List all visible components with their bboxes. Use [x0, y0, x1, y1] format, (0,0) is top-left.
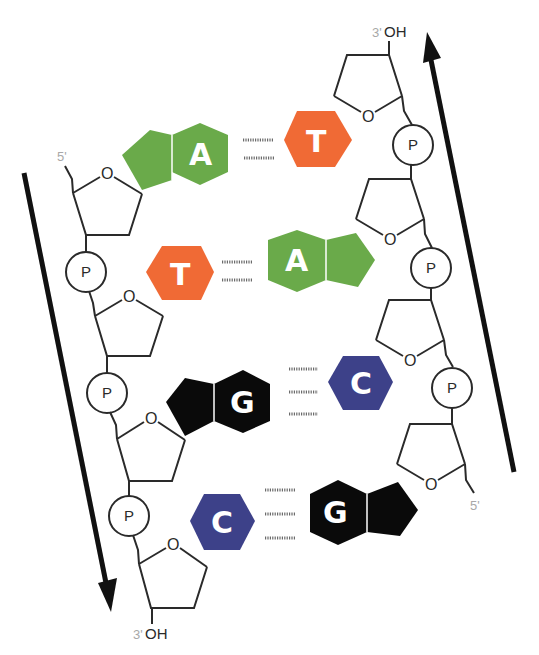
sugar-oxygen: O — [384, 231, 396, 248]
base-letter: G — [230, 385, 255, 420]
thymine-base-right-1: T — [284, 111, 352, 167]
left-5-prime-label: 5' — [57, 149, 67, 164]
dna-diagram: 5' O P O P — [0, 0, 539, 655]
left-phosphate-2: P — [87, 373, 127, 413]
right-5-prime-label: 5' — [470, 498, 480, 513]
base-letter: G — [323, 495, 348, 530]
hydrogen-bonds — [243, 140, 275, 158]
sugar-oxygen: O — [362, 108, 374, 125]
sugar-oxygen: O — [404, 352, 416, 369]
cytosine-base-right-3: C — [328, 356, 393, 410]
base-pair-4: C G — [190, 480, 418, 550]
left-sugar-1: O — [65, 165, 142, 252]
svg-text:P: P — [447, 379, 457, 396]
svg-text:P: P — [81, 263, 91, 280]
left-oh-label: OH — [145, 625, 168, 642]
svg-text:P: P — [102, 384, 112, 401]
adenine-base-left-1: A — [122, 123, 228, 190]
left-phosphate-3: P — [109, 496, 149, 536]
hydrogen-bonds — [289, 369, 318, 414]
right-phosphate-2: P — [411, 248, 451, 288]
right-phosphate-3: P — [432, 368, 472, 408]
base-letter: C — [211, 505, 233, 540]
guanine-base-right-4: G — [310, 480, 418, 545]
sugar-oxygen: O — [425, 476, 437, 493]
cytosine-base-left-4: C — [190, 494, 255, 550]
base-pair-1: A T — [122, 111, 352, 190]
base-letter: A — [189, 137, 213, 172]
sugar-oxygen: O — [167, 536, 179, 553]
hydrogen-bonds — [265, 490, 296, 538]
left-sugar-3: O — [110, 410, 185, 496]
sugar-oxygen: O — [145, 410, 157, 427]
right-sugar-3: O — [376, 288, 453, 369]
right-sugar-2: O — [356, 165, 432, 248]
right-phosphate-1: P — [393, 125, 433, 165]
guanine-base-left-3: G — [166, 370, 270, 436]
base-letter: T — [306, 124, 327, 159]
base-letter: C — [350, 366, 372, 401]
left-3-prime-label: 3' — [133, 627, 143, 642]
left-sugar-2: O — [89, 288, 163, 373]
sugar-oxygen: O — [123, 288, 135, 305]
adenine-base-right-2: A — [268, 230, 375, 292]
base-pair-3: G C — [166, 356, 393, 436]
base-letter: T — [170, 257, 191, 292]
svg-text:P: P — [426, 259, 436, 276]
hydrogen-bonds — [222, 262, 252, 280]
arrow-head-up-icon — [423, 32, 441, 63]
svg-text:P: P — [124, 507, 134, 524]
thymine-base-left-2: T — [146, 246, 214, 300]
left-phosphate-1: P — [66, 252, 106, 292]
right-sugar-1: O — [334, 41, 412, 125]
right-3-prime-label: 3' — [372, 25, 382, 40]
right-oh-label: OH — [384, 23, 407, 40]
base-pair-2: T A — [146, 230, 375, 300]
base-letter: A — [285, 243, 309, 278]
arrow-head-down-icon — [98, 578, 117, 612]
svg-text:P: P — [408, 136, 418, 153]
left-sugar-4: O — [133, 535, 207, 624]
right-sugar-4: O — [397, 408, 474, 493]
sugar-oxygen: O — [101, 165, 113, 182]
